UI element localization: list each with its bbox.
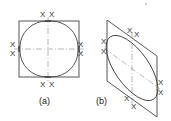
mark-a-right-top: X bbox=[78, 40, 84, 49]
mark-b-top-right: X bbox=[134, 30, 140, 39]
mark-b-right-bottom: X bbox=[158, 88, 164, 97]
mark-b-right-top: X bbox=[158, 78, 164, 87]
mark-b-left-bottom: X bbox=[101, 47, 107, 56]
mark-a-top-right: X bbox=[49, 10, 55, 19]
mark-b-top-left: X bbox=[127, 26, 133, 35]
mark-a-bottom-right: X bbox=[49, 80, 55, 89]
diagram-canvas: X X X X X X X X (a) X X X X X X X X (b) bbox=[0, 0, 171, 121]
mark-a-right-bottom: X bbox=[78, 49, 84, 58]
mark-a-left-top: X bbox=[10, 40, 16, 49]
mark-a-top-left: X bbox=[40, 10, 46, 19]
mark-b-left-top: X bbox=[101, 37, 107, 46]
figure-b: X X X X X X X X (b) bbox=[96, 4, 168, 117]
figure-a: X X X X X X X X (a) bbox=[10, 10, 84, 106]
mark-a-bottom-left: X bbox=[40, 80, 46, 89]
mark-b-bottom-right: X bbox=[131, 102, 137, 111]
caption-a: (a) bbox=[39, 96, 50, 106]
mark-b-bottom-left: X bbox=[124, 94, 130, 103]
caption-b: (b) bbox=[96, 96, 107, 106]
mark-a-left-bottom: X bbox=[10, 49, 16, 58]
